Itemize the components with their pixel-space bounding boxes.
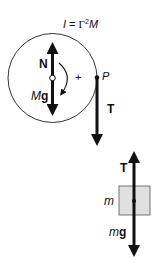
free-body-diagram: I = Γ2M N Mg + P T T m mg	[0, 0, 159, 275]
normal-force-label: N	[39, 57, 48, 71]
rotation-direction-arrow	[59, 63, 67, 93]
pulley-axle	[50, 75, 56, 81]
pulley-tension-label: T	[107, 102, 115, 116]
block-center-of-mass	[132, 199, 136, 203]
rotation-sign-label: +	[75, 71, 81, 83]
block-weight-label: mg	[109, 225, 126, 239]
contact-point-label: P	[102, 70, 110, 82]
pulley-weight-label: Mg	[31, 89, 48, 103]
block-mass-label: m	[104, 194, 114, 208]
block-tension-label: T	[120, 161, 128, 175]
moment-of-inertia-equation: I = Γ2M	[63, 18, 99, 30]
